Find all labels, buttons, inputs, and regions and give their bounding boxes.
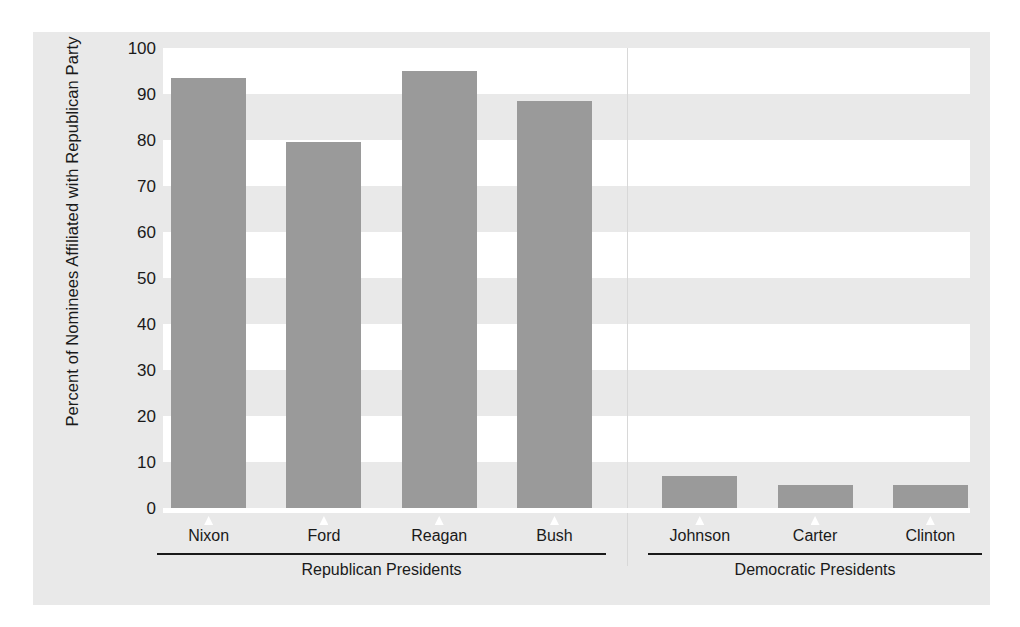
y-axis-tick-label: 80 xyxy=(96,132,156,149)
y-axis-tick-label: 10 xyxy=(96,454,156,471)
bar xyxy=(893,485,968,508)
axis-baseline xyxy=(163,508,970,513)
group-rule xyxy=(648,553,983,555)
group-rule xyxy=(157,553,607,555)
bar xyxy=(778,485,853,508)
x-axis-category-label: Bush xyxy=(536,527,572,545)
y-axis-tick-label: 90 xyxy=(96,86,156,103)
y-axis-title: Percent of Nominees Affiliated with Repu… xyxy=(63,12,82,452)
bar xyxy=(402,71,477,508)
x-axis-category-label: Nixon xyxy=(188,527,229,545)
y-axis-tick-label: 50 xyxy=(96,270,156,287)
bar xyxy=(171,78,246,508)
x-axis-category-label: Ford xyxy=(307,527,340,545)
bar xyxy=(662,476,737,508)
y-axis-tick-label: 20 xyxy=(96,408,156,425)
y-axis-tick-label: 30 xyxy=(96,362,156,379)
group-separator-line xyxy=(627,48,628,566)
plot-area xyxy=(163,48,970,508)
y-axis-tick-labels: 1009080706050403020100 xyxy=(96,40,156,520)
group-label: Democratic Presidents xyxy=(735,561,896,579)
chart-figure: Percent of Nominees Affiliated with Repu… xyxy=(0,0,1020,627)
y-axis-tick-label: 70 xyxy=(96,178,156,195)
x-axis-category-label: Clinton xyxy=(905,527,955,545)
x-axis-category-label: Carter xyxy=(793,527,837,545)
bar xyxy=(286,142,361,508)
y-axis-tick-label: 100 xyxy=(96,40,156,57)
group-label: Republican Presidents xyxy=(302,561,462,579)
bar xyxy=(517,101,592,508)
x-axis-category-label: Johnson xyxy=(670,527,731,545)
y-axis-tick-label: 40 xyxy=(96,316,156,333)
x-axis-category-label: Reagan xyxy=(411,527,467,545)
y-axis-tick-label: 0 xyxy=(96,500,156,517)
y-axis-tick-label: 60 xyxy=(96,224,156,241)
